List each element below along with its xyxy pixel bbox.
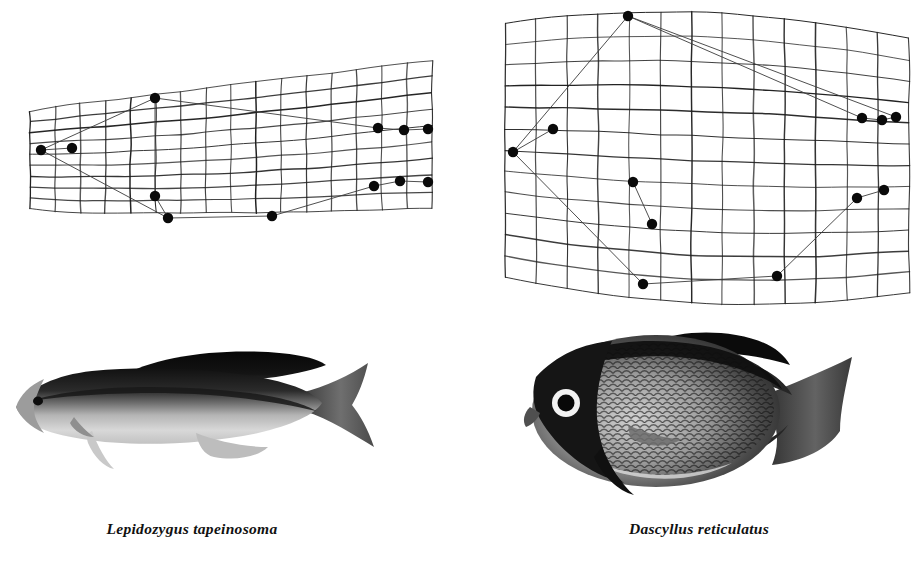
species-caption-left: Lepidozygus tapeinosoma bbox=[0, 520, 422, 538]
deformation-grid-lepidozygus bbox=[0, 0, 460, 320]
landmark-upper-caudal-peduncle bbox=[877, 115, 887, 125]
landmark-pelvic-fin-origin bbox=[647, 219, 657, 229]
landmark-dorsal-fin-origin bbox=[150, 93, 160, 103]
landmark-lower-caudal-peduncle bbox=[395, 176, 405, 186]
landmark-dorsal-fin-origin bbox=[623, 11, 633, 21]
eye bbox=[33, 397, 43, 406]
landmark-lower-caudal-tip bbox=[879, 185, 889, 195]
grid-svg-left bbox=[0, 0, 460, 320]
landmark-anal-fin-origin bbox=[638, 279, 648, 289]
landmark-upper-caudal-peduncle bbox=[399, 125, 409, 135]
landmark-dorsal-fin-terminus bbox=[373, 123, 383, 133]
grid-lines-right bbox=[505, 12, 910, 305]
landmark-snout-tip bbox=[36, 145, 46, 155]
landmark-dorsal-fin-terminus bbox=[857, 113, 867, 123]
landmark-pectoral-fin-base bbox=[150, 191, 160, 201]
wireframe-edge bbox=[633, 182, 652, 224]
fish-svg-left bbox=[0, 315, 460, 510]
species-caption-right: Dascyllus reticulatus bbox=[470, 520, 918, 538]
photograph-lepidozygus-tapeinosoma bbox=[0, 315, 460, 510]
landmark-snout-tip bbox=[508, 147, 518, 157]
morphometric-figure: Lepidozygus tapeinosoma bbox=[0, 0, 918, 572]
landmark-eye-region bbox=[548, 124, 558, 134]
landmark-anal-fin-terminus bbox=[369, 181, 379, 191]
eye bbox=[558, 395, 575, 412]
wireframe-edge bbox=[168, 216, 272, 218]
landmark-anal-fin-terminus bbox=[772, 271, 782, 281]
photograph-dascyllus-reticulatus bbox=[460, 315, 918, 510]
landmark-pectoral-fin-base bbox=[628, 177, 638, 187]
landmark-anal-fin-origin bbox=[267, 211, 277, 221]
wireframe-edge bbox=[628, 16, 896, 117]
panel-dascyllus: Dascyllus reticulatus bbox=[460, 0, 918, 572]
landmark-pelvic-fin-origin bbox=[163, 213, 173, 223]
landmark-eye-region bbox=[67, 143, 77, 153]
landmark-upper-caudal-tip bbox=[891, 112, 901, 122]
panel-lepidozygus: Lepidozygus tapeinosoma bbox=[0, 0, 460, 572]
wireframe-edge bbox=[777, 198, 857, 276]
landmark-upper-caudal-tip bbox=[423, 124, 433, 134]
landmark-lower-caudal-peduncle bbox=[852, 193, 862, 203]
fish-svg-right bbox=[460, 315, 918, 510]
wireframe-edge bbox=[513, 152, 643, 284]
landmark-lower-caudal-tip bbox=[423, 177, 433, 187]
landmark-points-left bbox=[36, 93, 433, 223]
landmark-wireframe-right bbox=[513, 16, 896, 284]
grid-svg-right bbox=[460, 0, 918, 320]
wireframe-edge bbox=[628, 16, 862, 118]
body bbox=[16, 368, 322, 444]
deformation-grid-dascyllus bbox=[460, 0, 918, 320]
wireframe-edge bbox=[513, 129, 553, 152]
